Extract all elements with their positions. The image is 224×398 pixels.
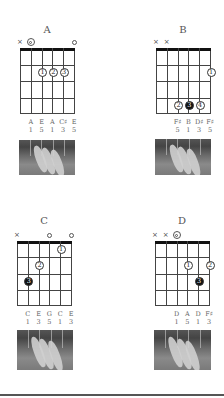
fret-line	[18, 274, 71, 275]
photo-fret	[30, 140, 31, 156]
fret-line	[156, 290, 209, 291]
note-name: A	[47, 119, 57, 126]
fret-line	[21, 98, 74, 99]
fret-line	[156, 257, 209, 258]
note-name: F♯	[173, 119, 183, 126]
scale-degree: 5	[205, 127, 215, 134]
hand-photo	[19, 140, 75, 175]
note-name: A	[182, 311, 192, 318]
hand-photo	[154, 330, 211, 370]
muted-string-icon: ×	[152, 232, 158, 239]
photo-fret	[200, 139, 201, 155]
note-name: C♯	[58, 119, 68, 126]
note-name: E	[34, 311, 44, 318]
scale-degree: 1	[183, 127, 193, 134]
finger-dot: 1	[207, 68, 216, 77]
finger-dot: 1	[38, 68, 47, 77]
chord-title: B	[173, 24, 193, 35]
scale-degree: 3	[194, 127, 204, 134]
fret-line	[156, 274, 209, 275]
chord-title: D	[172, 215, 192, 226]
root-open-string-icon	[173, 231, 181, 239]
note-name: D♯	[194, 119, 204, 126]
fretboard-grid: 123	[155, 241, 210, 306]
note-name: G	[44, 311, 54, 318]
fret-line	[157, 81, 210, 82]
finger-dot: 3	[60, 68, 69, 77]
muted-string-icon: ×	[164, 39, 170, 46]
note-name: F♯	[205, 119, 215, 126]
fret-line	[18, 257, 71, 258]
finger-dot: 1	[57, 245, 66, 254]
finger-dot: 2	[174, 101, 183, 110]
scale-degree: 1	[55, 319, 65, 326]
note-name: A	[26, 119, 36, 126]
finger-dot: 2	[35, 261, 44, 270]
note-name: E	[66, 311, 76, 318]
scale-degree: 3	[66, 319, 76, 326]
scale-degree: 1	[47, 127, 57, 134]
nut	[20, 48, 75, 51]
muted-string-icon: ×	[17, 39, 23, 46]
scale-degree: 3	[204, 319, 214, 326]
open-string-icon	[72, 40, 77, 45]
scale-degree: 3	[58, 127, 68, 134]
fret-line	[157, 65, 210, 66]
fret-line	[157, 98, 210, 99]
note-name: E	[69, 119, 79, 126]
scale-degree: 5	[182, 319, 192, 326]
scale-degree: 1	[26, 127, 36, 134]
nut	[156, 48, 211, 51]
photo-fret	[200, 330, 201, 348]
photo-fret	[62, 330, 63, 348]
finger-dot: 4	[196, 101, 205, 110]
note-name: D	[172, 311, 182, 318]
scale-degree: 3	[34, 319, 44, 326]
fret-line	[21, 65, 74, 66]
scale-degree: 1	[172, 319, 182, 326]
muted-string-icon: ×	[14, 232, 20, 239]
photo-fret	[28, 330, 29, 348]
bottom-divider	[0, 394, 224, 396]
chord-title: C	[34, 215, 54, 226]
fretboard-grid: 123	[20, 48, 75, 114]
scale-degree: 5	[173, 127, 183, 134]
photo-fret	[165, 330, 166, 348]
scale-degree: 5	[37, 127, 47, 134]
hand-photo	[17, 330, 73, 370]
fretboard-grid: 123	[17, 241, 72, 306]
note-name: F♯	[204, 311, 214, 318]
chord-title: A	[37, 24, 57, 35]
scale-degree: 1	[23, 319, 33, 326]
note-name: B	[183, 119, 193, 126]
note-name: E	[37, 119, 47, 126]
scale-degree: 5	[69, 127, 79, 134]
open-string-icon	[69, 233, 74, 238]
photo-fret	[64, 140, 65, 156]
hand-photo	[155, 139, 211, 175]
fret-line	[21, 81, 74, 82]
finger-dot: 2	[206, 261, 215, 270]
scale-degree: 1	[193, 319, 203, 326]
muted-string-icon: ×	[163, 232, 169, 239]
finger-dot: 1	[184, 261, 193, 270]
note-name: C	[55, 311, 65, 318]
root-open-string-icon	[27, 38, 35, 46]
nut	[155, 241, 210, 244]
scale-degree: 5	[44, 319, 54, 326]
finger-dot: 3	[195, 277, 204, 286]
fret-line	[18, 290, 71, 291]
finger-dot: 3	[24, 277, 33, 286]
note-name: D	[193, 311, 203, 318]
open-string-icon	[47, 233, 52, 238]
fretboard-grid: 1234	[156, 48, 211, 114]
note-name: C	[23, 311, 33, 318]
muted-string-icon: ×	[153, 39, 159, 46]
finger-dot: 2	[49, 68, 58, 77]
nut	[17, 241, 72, 244]
finger-dot: 3	[185, 101, 194, 110]
photo-fret	[166, 139, 167, 155]
